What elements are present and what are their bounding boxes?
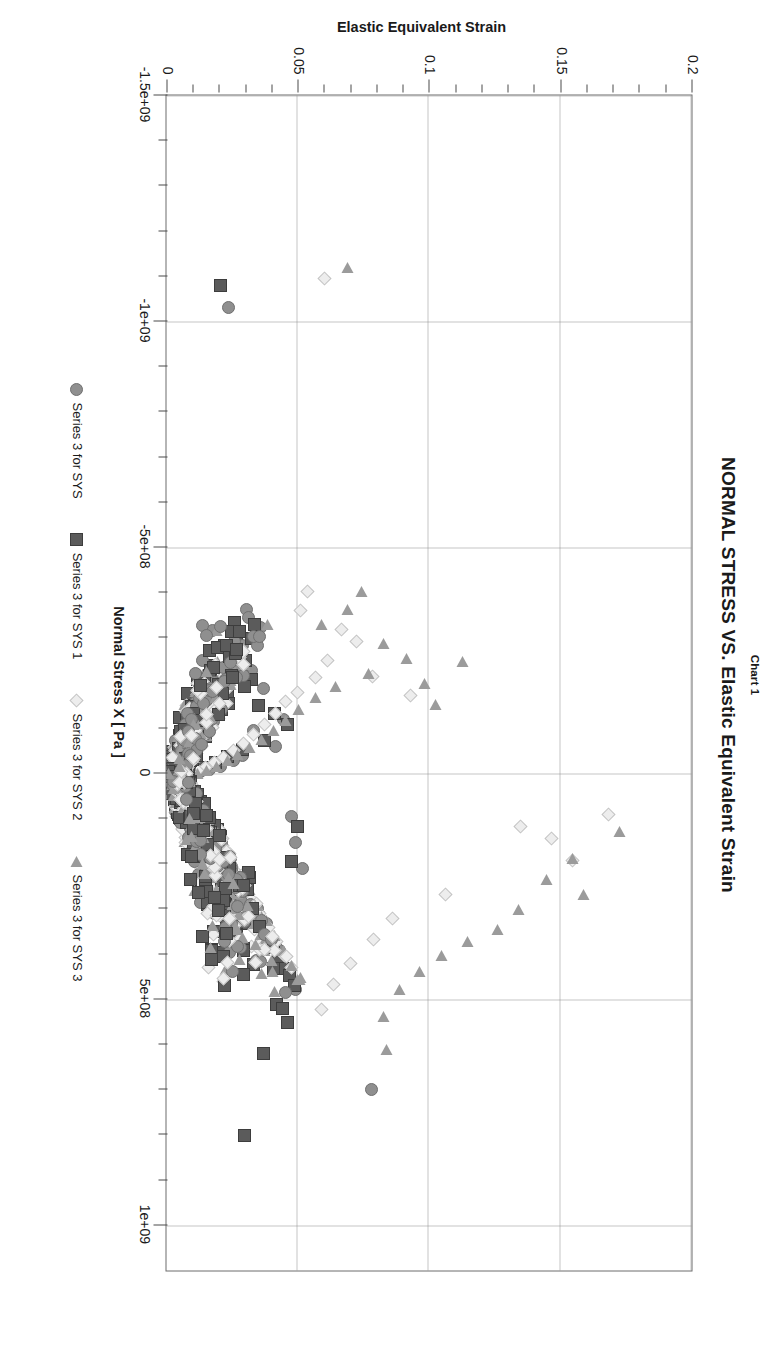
y-axis-tick: [691, 79, 692, 92]
data-point: [300, 584, 314, 598]
legend-item-1[interactable]: Series 3 for SYS 1: [69, 532, 84, 659]
data-point: [613, 825, 625, 836]
data-point: [366, 932, 380, 946]
y-axis-minor-tick: [612, 84, 613, 92]
y-axis-tick: [429, 79, 430, 92]
x-axis-tick: [153, 94, 167, 95]
data-point: [309, 691, 321, 702]
chart-stage: Chart 1 NORMAL STRESS VS. Elastic Equiva…: [0, 0, 774, 1349]
x-axis-minor-tick: [158, 862, 167, 863]
diamond-marker-icon: [70, 693, 83, 706]
y-axis-tick-label: 0.1: [422, 55, 438, 74]
data-point: [253, 629, 266, 642]
x-axis-minor-tick: [158, 1179, 167, 1180]
data-point: [334, 622, 348, 636]
data-point: [213, 278, 226, 291]
gridline-horizontal: [296, 95, 297, 1270]
gridline-horizontal: [559, 95, 560, 1270]
data-point: [348, 634, 362, 648]
x-axis-minor-tick: [158, 1133, 167, 1134]
y-axis: 00.050.10.150.2: [167, 62, 692, 92]
data-point: [362, 667, 374, 678]
data-point: [184, 872, 197, 885]
data-point: [200, 629, 213, 642]
data-point: [211, 903, 224, 916]
data-point: [429, 699, 441, 710]
data-point: [290, 684, 304, 698]
y-axis-minor-tick: [376, 84, 377, 92]
data-point: [491, 923, 503, 934]
data-point: [278, 985, 291, 998]
x-axis-minor-tick: [158, 184, 167, 185]
y-axis-minor-tick: [481, 84, 482, 92]
x-axis-minor-tick: [158, 1088, 167, 1089]
data-point: [308, 670, 322, 684]
y-axis-minor-tick: [324, 84, 325, 92]
x-axis-minor-tick: [158, 591, 167, 592]
page-title: NORMAL STRESS VS. Elastic Equivalent Str…: [716, 0, 738, 1349]
y-axis-minor-tick: [192, 84, 193, 92]
data-point: [320, 653, 334, 667]
x-axis-minor-tick: [158, 456, 167, 457]
legend-label: Series 3 for SYS: [69, 402, 84, 498]
x-axis: -1.5e+09-1e+09-5e+0805e+081e+09: [141, 94, 167, 1269]
data-point: [204, 952, 217, 965]
legend-item-3[interactable]: Series 3 for SYS 3: [69, 854, 84, 981]
data-point: [204, 942, 216, 953]
legend-item-2[interactable]: Series 3 for SYS 2: [69, 693, 84, 820]
data-point: [256, 1047, 269, 1060]
data-point: [577, 889, 589, 900]
data-point: [196, 858, 208, 869]
y-axis-minor-tick: [665, 84, 666, 92]
chart-legend: Series 3 for SYSSeries 3 for SYS 1Series…: [69, 94, 84, 1269]
data-point: [355, 586, 367, 597]
data-point: [189, 666, 202, 679]
data-point: [185, 830, 197, 841]
data-point: [540, 874, 552, 885]
data-point: [197, 824, 210, 837]
data-point: [238, 1129, 251, 1142]
x-axis-tick-label: 1e+09: [136, 1204, 152, 1243]
x-axis-tick-label: -5e+08: [136, 524, 152, 568]
y-axis-minor-tick: [586, 84, 587, 92]
data-point: [276, 1001, 289, 1014]
y-axis-minor-tick: [245, 84, 246, 92]
y-axis-minor-tick: [402, 84, 403, 92]
data-point: [199, 808, 212, 821]
x-axis-tick: [153, 546, 167, 547]
y-axis-tick: [166, 79, 167, 92]
chart-number-label: Chart 1: [748, 0, 760, 1349]
x-axis-minor-tick: [158, 365, 167, 366]
data-point: [285, 855, 298, 868]
data-point: [192, 885, 205, 898]
data-point: [294, 971, 306, 982]
y-axis-minor-tick: [534, 84, 535, 92]
y-axis-tick-label: 0.05: [290, 47, 306, 74]
data-point: [544, 831, 558, 845]
legend-item-0[interactable]: Series 3 for SYS: [69, 382, 84, 498]
legend-label: Series 3 for SYS 3: [69, 874, 84, 981]
legend-label: Series 3 for SYS 1: [69, 552, 84, 659]
x-axis-tick: [153, 998, 167, 999]
y-axis-tick: [560, 79, 561, 92]
data-point: [314, 1002, 328, 1016]
x-axis-tick: [153, 772, 167, 773]
x-axis-minor-tick: [158, 230, 167, 231]
data-point: [413, 965, 425, 976]
data-point: [181, 776, 194, 789]
x-axis-minor-tick: [158, 907, 167, 908]
y-axis-minor-tick: [219, 84, 220, 92]
x-axis-minor-tick: [158, 410, 167, 411]
y-axis-minor-tick: [639, 84, 640, 92]
x-axis-minor-tick: [158, 139, 167, 140]
x-axis-minor-tick: [158, 953, 167, 954]
data-point: [227, 878, 239, 889]
x-axis-tick-label: -1.5e+09: [136, 66, 152, 122]
data-point: [233, 625, 246, 638]
data-point: [400, 652, 412, 663]
x-axis-tick: [153, 320, 167, 321]
data-point: [435, 949, 447, 960]
data-point: [385, 911, 399, 925]
data-point: [343, 956, 357, 970]
x-axis-minor-tick: [158, 817, 167, 818]
